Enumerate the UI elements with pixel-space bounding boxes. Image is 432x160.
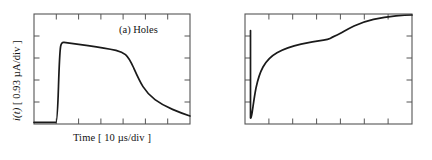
data-curve-holes	[34, 42, 190, 122]
plot-area-electrons	[216, 0, 432, 160]
y-axis-label-symbol: i	[11, 118, 22, 121]
x-axis-ticks-top	[56, 14, 167, 20]
y-axis-ticks-right	[407, 36, 413, 102]
y-axis-label-units: [ 0.93 µA/div ]	[11, 40, 22, 107]
data-curve-electrons	[251, 15, 413, 118]
y-axis-ticks	[34, 36, 40, 102]
plot-frame	[245, 14, 412, 124]
x-axis-label-holes: Time [ 10 µs/div ]	[34, 132, 190, 143]
x-axis-ticks	[56, 119, 167, 125]
chart-panel-holes: i(t) [ 0.93 µA/div ] Time [ 10 µs/div ] …	[0, 0, 216, 160]
y-axis-label-holes: i(t) [ 0.93 µA/div ]	[11, 40, 22, 121]
chart-panel-electrons: i(t) [ 0.37 µA/div ] Time [ 20 µs/div ] …	[216, 0, 432, 160]
y-axis-label-arg: (t)	[11, 108, 22, 118]
y-axis-ticks-right	[185, 36, 191, 102]
x-axis-ticks	[269, 119, 388, 125]
figure-container: i(t) [ 0.93 µA/div ] Time [ 10 µs/div ] …	[0, 0, 432, 160]
panel-title-holes: (a) Holes	[119, 24, 158, 35]
x-axis-ticks-top	[269, 14, 388, 20]
